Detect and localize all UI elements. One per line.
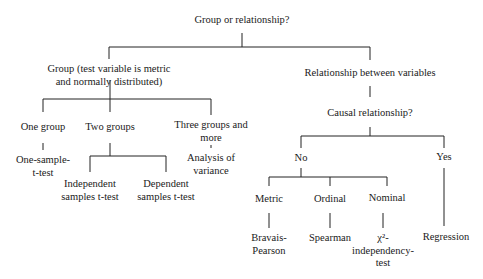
node-regression: Regression — [423, 231, 470, 244]
node-independent-line1: Independent — [61, 178, 118, 191]
node-chi-square-test: χ²- independency- test — [352, 232, 414, 270]
node-one-group: One group — [21, 121, 66, 134]
node-group-line2: and normally distributed) — [47, 76, 170, 89]
node-independent-line2: samples t-test — [61, 191, 118, 204]
node-group: Group (test variable is metric and norma… — [47, 63, 170, 88]
node-root: Group or relationship? — [194, 14, 289, 27]
node-three-groups-line1: Three groups and — [174, 119, 247, 132]
node-spearman: Spearman — [309, 232, 351, 245]
node-chi-line3: test — [352, 257, 414, 270]
node-ordinal: Ordinal — [314, 193, 346, 206]
node-causal: Causal relationship? — [327, 107, 412, 120]
node-anova-line2: variance — [187, 165, 235, 178]
node-two-groups: Two groups — [85, 121, 135, 134]
node-nominal: Nominal — [369, 192, 406, 205]
node-relationship: Relationship between variables — [304, 67, 435, 80]
node-one-sample-t-test: One-sample- t-test — [16, 154, 70, 179]
node-one-sample-line1: One-sample- — [16, 154, 70, 167]
node-chi-line2: independency- — [352, 245, 414, 258]
node-dependent-t-test: Dependent samples t-test — [137, 178, 194, 203]
node-metric: Metric — [255, 193, 283, 206]
node-three-groups: Three groups and more — [174, 119, 247, 144]
node-yes: Yes — [436, 151, 451, 164]
node-group-line1: Group (test variable is metric — [47, 63, 170, 76]
node-dependent-line1: Dependent — [137, 178, 194, 191]
node-bravais-line1: Bravais- — [251, 232, 287, 245]
node-independent-t-test: Independent samples t-test — [61, 178, 118, 203]
node-bravais-pearson: Bravais- Pearson — [251, 232, 287, 257]
node-dependent-line2: samples t-test — [137, 191, 194, 204]
node-chi-line1: χ²- — [352, 232, 414, 245]
node-anova-line1: Analysis of — [187, 152, 235, 165]
node-three-groups-line2: more — [174, 132, 247, 145]
node-bravais-line2: Pearson — [251, 245, 287, 258]
node-no: No — [295, 152, 308, 165]
decision-tree-diagram: Group or relationship? Group (test varia… — [0, 0, 483, 279]
node-anova: Analysis of variance — [187, 152, 235, 177]
